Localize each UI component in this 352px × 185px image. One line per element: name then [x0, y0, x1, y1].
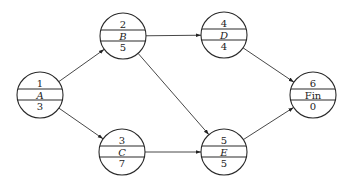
edges-layer	[59, 35, 294, 152]
node-duration: 5	[120, 42, 126, 53]
node-activity-name: D	[219, 30, 228, 41]
edge-e-fin	[243, 107, 293, 139]
node-fin: 6Fin0	[290, 72, 336, 118]
node-number: 5	[221, 135, 227, 146]
node-duration: 7	[119, 158, 125, 169]
node-number: 3	[119, 135, 125, 146]
node-number: 1	[37, 78, 43, 89]
edge-a-c	[59, 108, 103, 139]
node-duration: 0	[310, 101, 316, 112]
node-number: 2	[120, 19, 126, 30]
node-activity-name: E	[219, 147, 228, 158]
node-c: 3C7	[99, 129, 145, 175]
node-duration: 4	[221, 41, 227, 52]
node-a: 1A3	[17, 72, 63, 118]
edge-b-e	[138, 53, 209, 134]
node-activity-name: C	[118, 147, 126, 158]
nodes-layer: 1A32B53C74D45E56Fin0	[17, 12, 336, 175]
edge-d-fin	[243, 48, 294, 82]
node-activity-name: B	[118, 31, 126, 42]
node-number: 6	[310, 78, 316, 89]
edge-b-d	[146, 35, 201, 36]
node-activity-name: A	[35, 90, 43, 101]
node-d: 4D4	[201, 12, 247, 58]
node-b: 2B5	[100, 13, 146, 59]
edge-a-b	[59, 49, 105, 81]
node-duration: 3	[37, 101, 43, 112]
node-e: 5E5	[201, 129, 247, 175]
network-diagram: 1A32B53C74D45E56Fin0	[0, 0, 352, 185]
node-activity-name: Fin	[305, 90, 322, 101]
node-duration: 5	[221, 158, 227, 169]
node-number: 4	[221, 18, 227, 29]
